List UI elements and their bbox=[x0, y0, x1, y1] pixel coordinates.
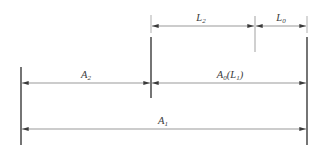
label-A0-L1: A0(L1) bbox=[217, 70, 243, 82]
label-A2: A2 bbox=[81, 70, 91, 82]
label-L2: L2 bbox=[196, 13, 205, 25]
label-A1: A1 bbox=[158, 116, 168, 128]
label-L0: L0 bbox=[276, 13, 285, 25]
